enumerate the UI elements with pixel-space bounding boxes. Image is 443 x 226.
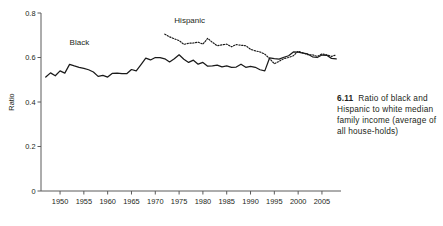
y-tick-label-3: 0.6 <box>25 53 35 62</box>
x-tick-label-9: 1995 <box>266 197 282 206</box>
y-tick-label-0: 0 <box>31 187 35 196</box>
x-tick-label-6: 1980 <box>195 197 211 206</box>
x-tick-label-7: 1985 <box>218 197 234 206</box>
caption-number: 6.11 <box>337 93 353 103</box>
x-tick-label-2: 1960 <box>99 197 115 206</box>
series-line-hispanic <box>165 34 336 64</box>
series-label-hispanic: Hispanic <box>174 16 205 25</box>
x-tick-label-8: 1990 <box>242 197 258 206</box>
y-axis-title: Ratio <box>7 93 16 110</box>
x-tick-label-11: 2005 <box>314 197 330 206</box>
y-tick-label-2: 0.4 <box>25 98 35 107</box>
x-tick-label-10: 2000 <box>290 197 306 206</box>
figure-caption: 6.11 Ratio of black and Hispanic to whit… <box>337 93 437 137</box>
x-tick-label-1: 1955 <box>76 197 92 206</box>
y-tick-label-1: 0.2 <box>25 142 35 151</box>
series-label-black: Black <box>70 38 91 47</box>
x-tick-label-3: 1965 <box>123 197 139 206</box>
x-tick-label-5: 1975 <box>171 197 187 206</box>
y-tick-label-4: 0.8 <box>25 9 35 18</box>
figure-6-11: 00.20.40.60.8195019551960196519701975198… <box>0 0 443 226</box>
x-tick-label-0: 1950 <box>52 197 68 206</box>
line-chart: 00.20.40.60.8195019551960196519701975198… <box>0 0 348 226</box>
chart-plot-area: 00.20.40.60.8195019551960196519701975198… <box>0 0 348 226</box>
x-tick-label-4: 1970 <box>147 197 163 206</box>
